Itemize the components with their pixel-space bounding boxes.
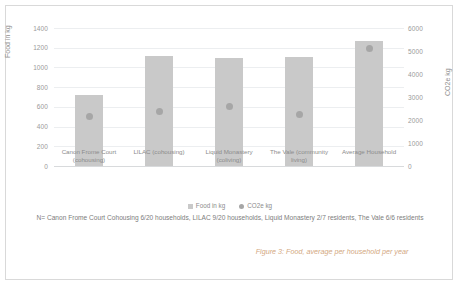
y-axis-right-tick-label: 4000 xyxy=(408,71,438,78)
x-axis-line xyxy=(54,166,404,167)
x-axis-tick-label: LILAC (cohousing) xyxy=(124,148,194,156)
data-point xyxy=(156,108,163,115)
x-axis-tick-label: Canon Frome Court (cohousing) xyxy=(54,148,124,164)
data-point xyxy=(86,113,93,120)
y-axis-left-tick-label: 800 xyxy=(18,84,48,91)
x-axis-tick-label: Average Household xyxy=(334,148,404,156)
x-axis-tick-label: The Vale (community living) xyxy=(264,148,334,164)
gridline xyxy=(54,28,404,29)
y-axis-right-tick-label: 6000 xyxy=(408,25,438,32)
plot-area xyxy=(54,28,404,166)
legend-label: Food in kg xyxy=(196,202,225,209)
figure-frame: Food in kg CO2e kg 020040060080010001200… xyxy=(5,5,453,280)
y-axis-right-tick-label: 3000 xyxy=(408,94,438,101)
y-axis-left-tick-label: 1400 xyxy=(18,25,48,32)
y-axis-left-tick-label: 200 xyxy=(18,143,48,150)
gridline xyxy=(54,48,404,49)
y-axis-left-tick-label: 1000 xyxy=(18,64,48,71)
chart-legend: Food in kgCO2e kg xyxy=(6,202,454,209)
data-point xyxy=(366,45,373,52)
y-axis-left-title: Food in kg xyxy=(4,25,11,58)
legend-circle-icon xyxy=(239,204,244,209)
y-axis-left-tick-label: 400 xyxy=(18,123,48,130)
figure-caption: Figure 3: Food, average per household pe… xyxy=(234,246,430,257)
y-axis-right-tick-label: 5000 xyxy=(408,48,438,55)
legend-square-icon xyxy=(188,204,193,209)
data-point xyxy=(296,111,303,118)
legend-item: CO2e kg xyxy=(239,202,272,209)
x-axis-tick-label: Liquid Monastery (coliving) xyxy=(194,148,264,164)
y-axis-right-title: CO2e kg xyxy=(444,68,451,96)
y-axis-left-tick-label: 0 xyxy=(18,163,48,170)
y-axis-left-tick-label: 600 xyxy=(18,103,48,110)
y-axis-right-tick-label: 0 xyxy=(408,163,438,170)
y-axis-right-tick-label: 1000 xyxy=(408,140,438,147)
legend-item: Food in kg xyxy=(188,202,225,209)
chart-footnote: N= Canon Frome Court Cohousing 6/20 hous… xyxy=(30,213,430,223)
y-axis-right-tick-label: 2000 xyxy=(408,117,438,124)
legend-label: CO2e kg xyxy=(247,202,272,209)
data-point xyxy=(226,103,233,110)
y-axis-left-tick-label: 1200 xyxy=(18,44,48,51)
